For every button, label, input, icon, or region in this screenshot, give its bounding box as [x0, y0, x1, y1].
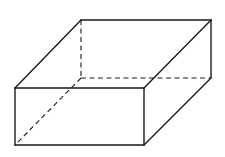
- visible-edge: [144, 78, 211, 145]
- hidden-edges: [15, 20, 211, 145]
- box-diagram: [0, 0, 225, 157]
- visible-edge: [15, 20, 81, 88]
- visible-edges: [15, 20, 211, 145]
